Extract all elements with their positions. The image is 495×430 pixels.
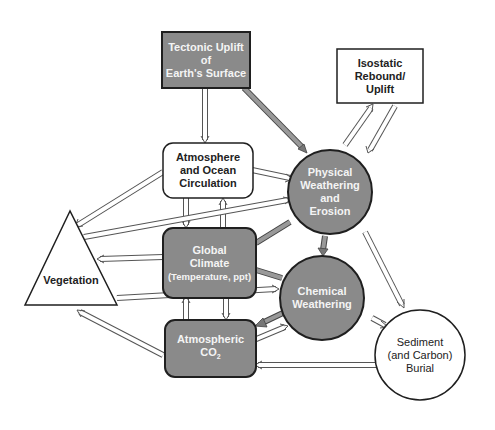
arrow-climate-to-vegetation (97, 255, 163, 263)
arrow-physical-to-chemical (318, 236, 328, 256)
arrow-tectonic-to-atmosphere (201, 88, 209, 143)
arrow-physical-to-sediment (365, 232, 404, 308)
node-physical-weathering (288, 150, 372, 234)
arrow-climate-to-chemical (256, 270, 282, 278)
node-isostatic-rebound (337, 49, 423, 103)
arrow-sediment-to-co2 (255, 361, 380, 369)
arrow-tectonic-to-physical (244, 88, 307, 153)
node-sediment-burial (375, 310, 465, 400)
arrow-co2-to-climate (182, 296, 190, 320)
node-tectonic-uplift (162, 32, 250, 88)
arrow-climate-to-physical (256, 222, 290, 243)
arrow-atmosphere-to-climate (182, 198, 190, 228)
arrow-co2-to-vegetation (77, 310, 163, 355)
node-atmospheric-co2 (165, 320, 256, 377)
arrow-atmosphere-to-physical (252, 170, 293, 182)
arrow-physical-to-isostatic (345, 104, 373, 145)
arrow-chemical-to-co2 (255, 312, 285, 327)
node-global-climate (163, 228, 256, 298)
node-chemical-weathering (280, 256, 364, 340)
arrow-atmosphere-to-vegetation (75, 172, 163, 227)
node-atmosphere-ocean (163, 143, 253, 198)
carbon-cycle-diagram (0, 0, 495, 430)
arrow-climate-to-co2 (222, 297, 230, 320)
